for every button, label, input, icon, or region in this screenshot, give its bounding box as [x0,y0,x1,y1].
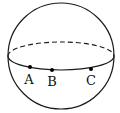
equator-front-solid [8,56,114,70]
point-c [89,67,93,71]
label-b: B [47,74,57,89]
sphere-outline [8,3,114,109]
point-a [28,65,32,69]
label-a: A [23,72,34,87]
point-b [50,68,54,72]
sphere-diagram: A B C [0,0,120,113]
equator-back-dashed [8,42,114,56]
label-c: C [86,73,96,88]
